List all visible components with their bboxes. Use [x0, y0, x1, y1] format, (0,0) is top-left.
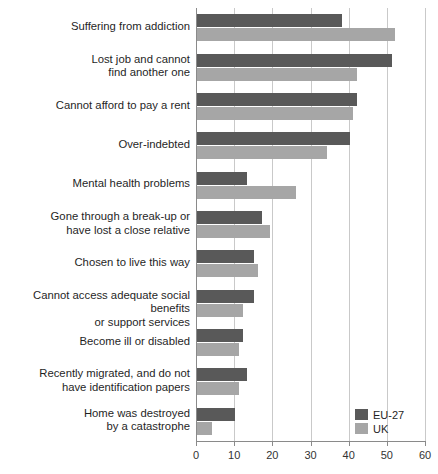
bar-uk — [197, 186, 296, 199]
bar-uk — [197, 68, 357, 81]
tick-label-0: 0 — [193, 449, 199, 461]
legend-swatch-eu-27 — [355, 409, 368, 420]
category-label: Become ill or disabled — [0, 335, 190, 349]
category-label: Over-indebted — [0, 138, 190, 152]
gridline-50 — [387, 8, 388, 441]
bar-eu-27 — [197, 408, 235, 421]
legend-item-eu-27: EU-27 — [355, 408, 404, 421]
category-label: Gone through a break-up or have lost a c… — [0, 210, 190, 237]
bar-eu-27 — [197, 329, 243, 342]
bar-uk — [197, 343, 239, 356]
bar-eu-27 — [197, 54, 392, 67]
tick-mark-0 — [196, 441, 197, 446]
category-label: Home was destroyed by a catastrophe — [0, 407, 190, 434]
bar-eu-27 — [197, 93, 357, 106]
bar-uk — [197, 28, 395, 41]
tick-mark-20 — [272, 441, 273, 446]
tick-label-20: 20 — [266, 449, 278, 461]
chart-legend: EU-27 UK — [355, 408, 404, 436]
bar-uk — [197, 107, 353, 120]
tick-label-60: 60 — [419, 449, 431, 461]
bar-uk — [197, 146, 327, 159]
tick-mark-40 — [349, 441, 350, 446]
bar-eu-27 — [197, 14, 342, 27]
category-label: Cannot afford to pay a rent — [0, 99, 190, 113]
bar-eu-27 — [197, 132, 350, 145]
bar-eu-27 — [197, 172, 247, 185]
bar-chart: 0102030405060 Suffering from addictionLo… — [0, 0, 438, 474]
bar-uk — [197, 304, 243, 317]
bar-eu-27 — [197, 290, 254, 303]
legend-label-uk: UK — [373, 423, 388, 435]
tick-label-30: 30 — [304, 449, 316, 461]
bar-eu-27 — [197, 211, 262, 224]
category-label: Suffering from addiction — [0, 20, 190, 34]
tick-label-50: 50 — [381, 449, 393, 461]
bar-eu-27 — [197, 250, 254, 263]
bar-uk — [197, 422, 212, 435]
category-label: Chosen to live this way — [0, 256, 190, 270]
gridline-60 — [425, 8, 426, 441]
tick-label-10: 10 — [228, 449, 240, 461]
category-label: Mental health problems — [0, 177, 190, 191]
bar-uk — [197, 264, 258, 277]
legend-label-eu-27: EU-27 — [373, 409, 404, 421]
category-label: Recently migrated, and do not have ident… — [0, 367, 190, 394]
category-label: Lost job and cannot find another one — [0, 53, 190, 80]
bar-uk — [197, 382, 239, 395]
bar-uk — [197, 225, 270, 238]
legend-item-uk: UK — [355, 422, 404, 435]
category-label: Cannot access adequate social benefits o… — [0, 289, 190, 330]
tick-label-40: 40 — [343, 449, 355, 461]
tick-mark-60 — [425, 441, 426, 446]
legend-swatch-uk — [355, 423, 368, 434]
bar-eu-27 — [197, 368, 247, 381]
tick-mark-30 — [311, 441, 312, 446]
tick-mark-10 — [234, 441, 235, 446]
tick-mark-50 — [387, 441, 388, 446]
